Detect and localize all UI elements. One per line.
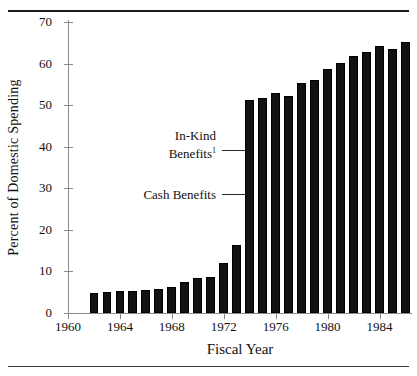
x-tick-label: 1984 — [356, 320, 404, 334]
bar — [154, 289, 163, 313]
y-tick-mark — [64, 147, 73, 148]
plot-area — [68, 22, 412, 313]
y-tick-mark — [64, 105, 73, 106]
y-tick-label: 30 — [12, 181, 52, 194]
y-tick-mark — [64, 271, 73, 272]
y-tick-label: 0 — [12, 306, 52, 319]
y-tick-mark — [64, 64, 73, 65]
annotation-in-kind-superscript: 1 — [212, 146, 216, 155]
bar — [141, 290, 150, 313]
y-tick-mark — [64, 230, 73, 231]
bottom-rule — [8, 366, 409, 367]
bar — [167, 287, 176, 313]
bar — [103, 292, 112, 313]
bar — [90, 293, 99, 313]
bar — [271, 93, 280, 313]
x-tick-label: 1960 — [44, 320, 92, 334]
bar — [375, 46, 384, 313]
annotation-in-kind-leader-line — [222, 150, 245, 151]
bar — [297, 83, 306, 313]
x-tick-label: 1976 — [252, 320, 300, 334]
chart-figure: Percent of Domestic Spending Fiscal Year… — [0, 0, 417, 376]
y-tick-label: 70 — [12, 15, 52, 28]
x-tick-label: 1972 — [200, 320, 248, 334]
annotation-in-kind-benefits: In-Kind Benefits1 — [150, 128, 216, 161]
annotation-cash-leader-line — [222, 194, 245, 195]
y-tick-mark — [64, 188, 73, 189]
annotation-in-kind-line2: Benefits1 — [150, 143, 216, 161]
y-tick-label: 20 — [12, 223, 52, 236]
y-tick-label: 10 — [12, 264, 52, 277]
bar — [193, 278, 202, 313]
y-tick-mark — [64, 22, 73, 23]
bar — [128, 291, 137, 313]
x-axis-title: Fiscal Year — [68, 341, 412, 358]
bar — [401, 42, 410, 313]
annotation-in-kind-line1: In-Kind — [150, 128, 216, 143]
bar — [310, 80, 319, 313]
y-tick-label: 40 — [12, 140, 52, 153]
bar — [232, 245, 241, 313]
bar — [323, 69, 332, 313]
bar — [284, 96, 293, 313]
x-tick-label: 1980 — [304, 320, 352, 334]
bar — [116, 291, 125, 313]
bar — [245, 100, 254, 313]
annotation-cash-benefits: Cash Benefits — [128, 187, 216, 202]
bar — [336, 63, 345, 313]
bar — [219, 263, 228, 313]
y-tick-label: 50 — [12, 98, 52, 111]
annotation-in-kind-benefits-word: Benefits — [169, 146, 212, 161]
x-tick-label: 1968 — [148, 320, 196, 334]
bar — [258, 98, 267, 313]
bar — [349, 56, 358, 313]
bar — [362, 52, 371, 313]
bar — [388, 49, 397, 313]
x-tick-label: 1964 — [96, 320, 144, 334]
y-tick-label: 60 — [12, 57, 52, 70]
annotation-cash-line1: Cash Benefits — [128, 187, 216, 202]
bar — [206, 277, 215, 313]
top-rule — [8, 10, 409, 12]
bar — [180, 282, 189, 313]
